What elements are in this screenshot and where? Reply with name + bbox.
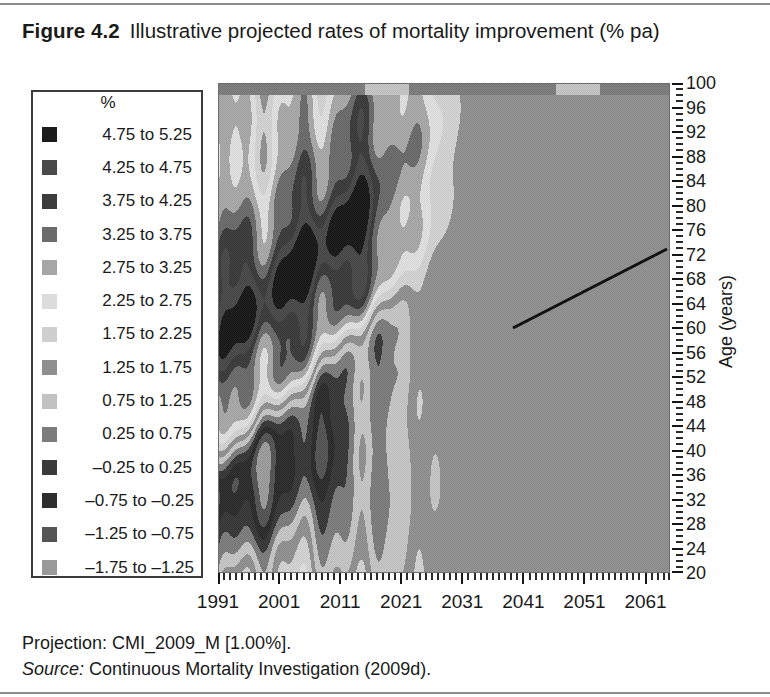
x-axis-tick-minor	[345, 573, 347, 580]
x-axis-tick-minor	[529, 573, 531, 580]
y-axis-tick-label: 76	[686, 221, 726, 239]
y-axis-tick-minor	[676, 247, 683, 249]
x-axis-tick-minor	[357, 573, 359, 580]
y-axis-tick-minor	[676, 407, 683, 409]
x-axis-tick-minor	[412, 573, 414, 580]
y-axis-tick-major	[672, 131, 683, 133]
x-axis-tick-minor	[290, 573, 292, 580]
x-axis-tick-minor	[388, 573, 390, 580]
y-axis-tick-minor	[676, 541, 683, 543]
x-axis-tick-minor	[651, 573, 653, 580]
contour-plot: Cohort effect	[218, 83, 670, 573]
legend-swatch-icon	[42, 160, 57, 175]
legend-box: % 4.75 to 5.254.25 to 4.753.75 to 4.253.…	[31, 90, 203, 578]
y-axis-tick-label: 44	[686, 417, 726, 435]
y-axis-tick-major	[672, 425, 683, 427]
y-axis-tick-label: 24	[686, 540, 726, 558]
y-axis-tick-minor	[676, 186, 683, 188]
legend-label: 0.25 to 0.75	[57, 424, 201, 444]
y-axis-tick-minor	[676, 241, 683, 243]
top-divider	[0, 3, 770, 5]
x-axis-tick-minor	[241, 573, 243, 580]
x-axis-tick-minor	[492, 573, 494, 580]
legend-swatch-icon	[42, 527, 57, 542]
x-axis-tick-label: 1991	[188, 590, 248, 614]
y-axis-tick-major	[672, 499, 683, 501]
y-axis-tick-minor	[676, 535, 683, 537]
legend-label: 4.75 to 5.25	[57, 125, 201, 145]
y-axis-tick-minor	[676, 143, 683, 145]
y-axis-tick-label: 92	[686, 123, 726, 141]
legend-swatch-icon	[42, 294, 57, 309]
y-axis-tick-major	[672, 156, 683, 158]
legend-row: 4.75 to 5.25	[33, 118, 201, 151]
x-axis-tick-minor	[547, 573, 549, 580]
y-axis-tick-major	[672, 548, 683, 550]
y-axis-tick-minor	[676, 94, 683, 96]
y-axis-tick-minor	[676, 296, 683, 298]
figure-number: Figure 4.2	[22, 19, 120, 42]
legend-row: –1.25 to –0.75	[33, 518, 201, 551]
y-axis-tick-label: 28	[686, 515, 726, 533]
x-axis-tick-major	[645, 573, 647, 584]
y-axis-tick-major	[672, 180, 683, 182]
x-axis-tick-label: 2061	[616, 590, 676, 614]
y-axis-tick-minor	[676, 290, 683, 292]
y-axis-tick-minor	[676, 339, 683, 341]
x-axis-tick-minor	[254, 573, 256, 580]
y-axis-tick-label: 72	[686, 246, 726, 264]
x-axis-tick-label: 2001	[249, 590, 309, 614]
legend-row: 0.25 to 0.75	[33, 418, 201, 451]
y-axis-tick-minor	[676, 394, 683, 396]
legend-swatch-icon	[42, 493, 57, 508]
x-axis-tick-minor	[638, 573, 640, 580]
y-axis-tick-minor	[676, 358, 683, 360]
y-axis-tick-minor	[676, 198, 683, 200]
x-axis-tick-minor	[590, 573, 592, 580]
legend-label: 1.25 to 1.75	[57, 358, 201, 378]
y-axis-tick-minor	[676, 321, 683, 323]
x-axis-tick-minor	[577, 573, 579, 580]
legend-swatch-icon	[42, 394, 57, 409]
y-axis-tick-minor	[676, 119, 683, 121]
y-axis-tick-minor	[676, 505, 683, 507]
y-axis-tick-label: 80	[686, 197, 726, 215]
y-axis-tick-minor	[676, 137, 683, 139]
legend-label: 2.75 to 3.25	[57, 258, 201, 278]
y-axis-tick-minor	[676, 174, 683, 176]
x-axis-tick-minor	[455, 573, 457, 580]
y-axis-tick-minor	[676, 529, 683, 531]
legend-title: %	[33, 93, 183, 113]
y-axis-tick-minor	[676, 125, 683, 127]
x-axis-tick-minor	[303, 573, 305, 580]
x-axis-tick-minor	[553, 573, 555, 580]
x-axis-tick-minor	[498, 573, 500, 580]
bottom-divider	[0, 692, 770, 694]
x-axis-tick-minor	[571, 573, 573, 580]
legend-label: –1.25 to –0.75	[57, 524, 201, 544]
y-axis-tick-minor	[676, 480, 683, 482]
y-axis-tick-major	[672, 229, 683, 231]
x-axis-tick-minor	[443, 573, 445, 580]
y-axis-tick-minor	[676, 431, 683, 433]
y-axis-tick-label: 52	[686, 368, 726, 386]
x-axis-tick-label: 2051	[554, 590, 614, 614]
footer-source: Source: Continuous Mortality Investigati…	[22, 656, 742, 682]
x-axis-tick-minor	[596, 573, 598, 580]
y-axis-tick-minor	[676, 100, 683, 102]
legend-label: –0.75 to –0.25	[57, 491, 201, 511]
legend-swatch-icon	[42, 227, 57, 242]
y-axis-ticks	[670, 83, 683, 573]
legend-row: 2.25 to 2.75	[33, 284, 201, 317]
y-axis-tick-minor	[676, 364, 683, 366]
x-axis-tick-minor	[260, 573, 262, 580]
legend-swatch-icon	[42, 194, 57, 209]
y-axis-tick-label: 96	[686, 99, 726, 117]
y-axis-tick-minor	[676, 113, 683, 115]
y-axis-tick-major	[672, 83, 683, 85]
y-axis-tick-label: 32	[686, 491, 726, 509]
y-axis-tick-major	[672, 571, 683, 573]
legend-label: 3.75 to 4.25	[57, 191, 201, 211]
x-axis-tick-minor	[632, 573, 634, 580]
x-axis-tick-minor	[223, 573, 225, 580]
